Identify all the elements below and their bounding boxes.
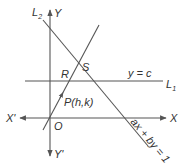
l2-equation: ax + by = 1 xyxy=(128,116,172,165)
l1-label: L1 xyxy=(166,78,176,92)
origin-label: O xyxy=(54,120,63,132)
p-label: P(h,k) xyxy=(64,96,94,108)
s-label: S xyxy=(82,61,90,73)
y-neg-label: Y' xyxy=(54,148,64,160)
l2-label: L2 xyxy=(32,6,42,20)
y-pos-label: Y xyxy=(54,7,62,19)
l1-equation: y = c xyxy=(127,67,152,79)
x-pos-label: X xyxy=(169,112,178,124)
coordinate-diagram: L2 Y S R y = c L1 P(h,k) X' X O Y' ax + … xyxy=(0,0,184,168)
direction-arrow xyxy=(60,95,62,99)
r-label: R xyxy=(61,68,69,80)
x-neg-label: X' xyxy=(5,112,16,124)
